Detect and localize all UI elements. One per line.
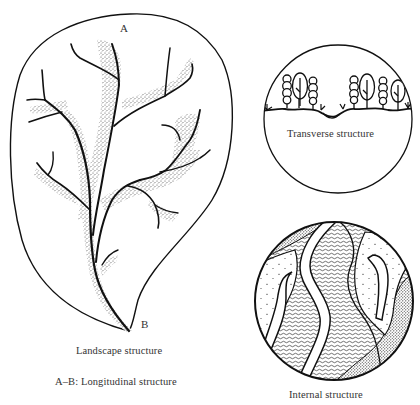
longitudinal-caption: A–B: Longitudinal structure bbox=[55, 376, 177, 387]
transverse-circle bbox=[264, 45, 412, 193]
point-b-label: B bbox=[141, 318, 148, 330]
point-a-label: A bbox=[120, 22, 128, 34]
transverse-panel bbox=[258, 45, 420, 193]
internal-mosaic bbox=[250, 220, 420, 385]
landscape-structure-figure bbox=[0, 0, 420, 405]
landscape-outline bbox=[10, 14, 232, 331]
landscape-caption: Landscape structure bbox=[76, 345, 162, 356]
landscape-panel bbox=[10, 14, 232, 333]
internal-panel bbox=[250, 220, 420, 385]
tree-icon bbox=[283, 75, 292, 108]
transverse-caption: Transverse structure bbox=[287, 128, 374, 139]
internal-caption: Internal structure bbox=[289, 389, 363, 400]
